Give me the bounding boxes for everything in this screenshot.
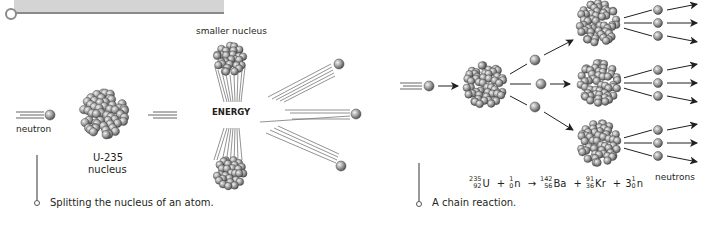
equation-operator: + [573, 178, 581, 189]
equation-operator: → [528, 178, 536, 189]
neutron-icon [45, 110, 55, 120]
output-neutron-icon [654, 32, 663, 41]
chain-nucleus-2-icon [576, 0, 620, 46]
incoming-neutron-icon [424, 81, 434, 91]
equation-operator: + [497, 178, 505, 189]
output-neutron-icon [654, 92, 663, 101]
caption-marker-right [417, 202, 422, 207]
equation-term: 9136Kr [586, 176, 609, 190]
u235-label: U-235 [93, 152, 123, 163]
smaller-nucleus-bottom-icon [213, 157, 247, 190]
caption-chain-reaction: A chain reaction. [432, 197, 516, 208]
neutrons-label: neutrons [655, 172, 695, 182]
equation-operator: + [613, 178, 621, 189]
chain-nucleus-3-icon [577, 60, 621, 107]
output-neutron-icon [654, 126, 663, 135]
output-neutron-icon [654, 66, 663, 75]
output-neutron-icon [654, 79, 663, 88]
equation-term: 23592U [469, 176, 493, 190]
equation-term: 14256Ba [540, 176, 569, 190]
output-neutron-icon [654, 152, 663, 161]
smaller-nucleus-label: smaller nucleus [196, 26, 267, 36]
emitted-neutron-1-icon [334, 59, 344, 69]
nuclear-fission-diagram: smaller nucleus neutron U-235 nucleus EN… [0, 0, 710, 227]
energy-label: ENERGY [212, 107, 250, 117]
equation-term: 10n [509, 176, 523, 190]
output-neutron-icon [654, 139, 663, 148]
chain-nucleus-4-icon [578, 120, 622, 167]
emitted-neutron-3-icon [336, 161, 346, 171]
equation-term: 310n [625, 176, 646, 190]
neutron-motion-lines [16, 112, 44, 118]
diagram-graphics [0, 0, 710, 227]
u235-nucleus-icon [80, 89, 129, 139]
neutron-label: neutron [16, 124, 51, 134]
caption-marker-left [35, 201, 40, 206]
caption-splitting: Splitting the nucleus of an atom. [50, 197, 214, 208]
emitted-neutron-2-icon [351, 109, 361, 119]
nucleus-label: nucleus [88, 164, 127, 175]
chain-nucleus-1-icon [463, 62, 507, 108]
output-neutron-icon [654, 6, 663, 15]
fission-equation: 23592U+10n→14256Ba+9136Kr+310n [469, 176, 646, 190]
output-neutron-icon [654, 19, 663, 28]
emitted-neutron-trails [260, 64, 350, 163]
